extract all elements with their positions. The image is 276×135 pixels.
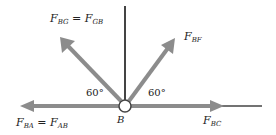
joint-b-free-body-diagram: FBG = FGB FBF FBA = FAB FBC B 60° 60° (0, 0, 276, 135)
label-f-bc: FBC (202, 114, 222, 128)
label-f-bg: FBG = FGB (49, 12, 103, 26)
force-arrow-bc (131, 100, 224, 112)
angle-left-label: 60° (86, 87, 104, 98)
force-arrow-ba (20, 100, 119, 112)
label-joint-b: B (116, 114, 124, 125)
arrowhead-left-icon (20, 100, 34, 112)
arrowhead-right-icon (210, 100, 224, 112)
label-f-bf: FBF (183, 30, 203, 44)
joint-b-pin (119, 100, 131, 112)
label-f-ba: FBA = FAB (15, 116, 68, 130)
angle-right-label: 60° (148, 87, 166, 98)
